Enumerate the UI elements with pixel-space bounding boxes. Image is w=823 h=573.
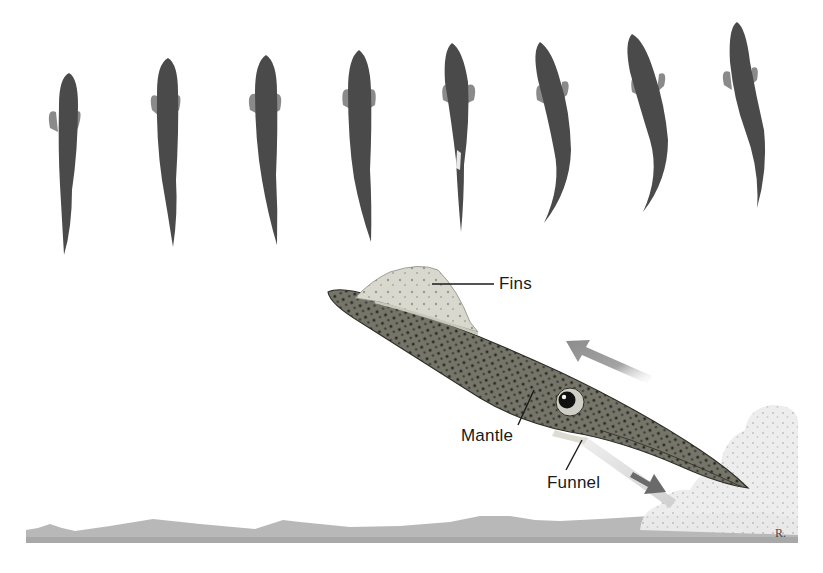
artist-signature: R. [775, 526, 786, 540]
squid-silhouette-5 [442, 43, 475, 232]
illustration-svg: R. [0, 0, 823, 573]
funnel-leader-line [566, 440, 582, 470]
squid-silhouette-3 [249, 55, 281, 245]
squid-silhouette-1 [49, 73, 81, 255]
swim-sequence [49, 22, 765, 255]
squid-body [328, 266, 748, 488]
motion-arrow [566, 340, 652, 384]
seabed-shadow [26, 537, 798, 543]
squid-illustration: R. Fins Mantle Funnel [0, 0, 823, 573]
squid-silhouette-4 [342, 50, 375, 242]
squid-silhouette-7 [627, 34, 668, 212]
label-fins: Fins [499, 274, 532, 294]
squid-silhouette-8 [723, 22, 765, 208]
squid-silhouette-6 [535, 42, 571, 223]
squid-silhouette-2 [151, 58, 181, 247]
label-funnel: Funnel [547, 473, 600, 493]
eye [556, 388, 584, 416]
label-mantle: Mantle [461, 426, 513, 446]
